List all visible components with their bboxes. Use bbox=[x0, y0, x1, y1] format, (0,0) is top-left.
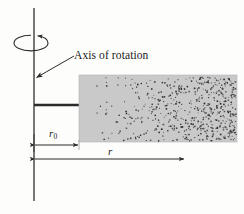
r-label: r bbox=[108, 146, 112, 157]
diagram-canvas bbox=[0, 0, 244, 214]
r0-symbol: r bbox=[49, 127, 53, 139]
slab-body bbox=[79, 75, 237, 142]
r0-subscript: 0 bbox=[54, 132, 58, 141]
axis-leader-line bbox=[37, 56, 75, 78]
rotating-slab-diagram: Axis of rotation r0 r bbox=[0, 0, 244, 214]
r0-label: r0 bbox=[49, 128, 57, 139]
axis-of-rotation-label: Axis of rotation bbox=[74, 50, 148, 62]
rotation-direction-icon bbox=[14, 35, 48, 51]
